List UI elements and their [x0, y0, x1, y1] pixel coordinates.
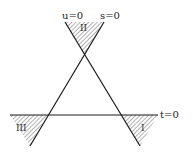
s-zero-line: [30, 22, 104, 146]
region-II-label: II: [80, 23, 88, 33]
region-I-label: I: [141, 123, 145, 133]
s-zero-label: s=0: [100, 10, 120, 21]
u-zero-line: [65, 22, 140, 146]
region-III-label: III: [16, 123, 27, 133]
t-zero-label: t=0: [160, 109, 179, 120]
region-I-shading: [122, 115, 158, 146]
mandelstam-diagram: u=0 s=0 t=0 II III I: [0, 0, 193, 154]
u-zero-label: u=0: [62, 10, 83, 21]
